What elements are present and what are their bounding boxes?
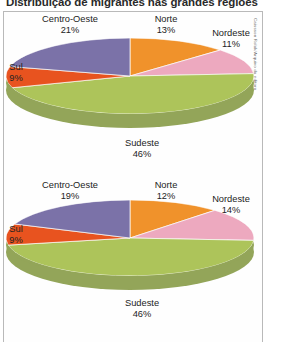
pie-label-sul: Sul 9% (0, 62, 34, 85)
pie-label-nordeste: Nordeste 11% (196, 28, 266, 51)
pie-label-norte: Norte 13% (136, 14, 196, 37)
pie-label-sul: Sul 9% (0, 224, 34, 247)
figure-title: Distribuição de migrantes nas grandes re… (6, 0, 268, 9)
pie-label-centro-oeste: Centro-Oeste 21% (18, 14, 122, 37)
pie-label-norte: Norte 12% (136, 180, 196, 203)
pie-label-centro-oeste: Centro-Oeste 19% (18, 180, 122, 203)
pie-chart-bottom: Centro-Oeste 19% Norte 12% Nordeste 14% … (0, 180, 266, 326)
pie-label-sudeste: Sudeste 46% (90, 138, 194, 161)
pie-label-sudeste: Sudeste 46% (90, 298, 194, 321)
pie-chart-top: Centro-Oeste 21% Norte 13% Nordeste 11% … (0, 14, 266, 172)
pie-label-nordeste: Nordeste 14% (196, 194, 266, 217)
